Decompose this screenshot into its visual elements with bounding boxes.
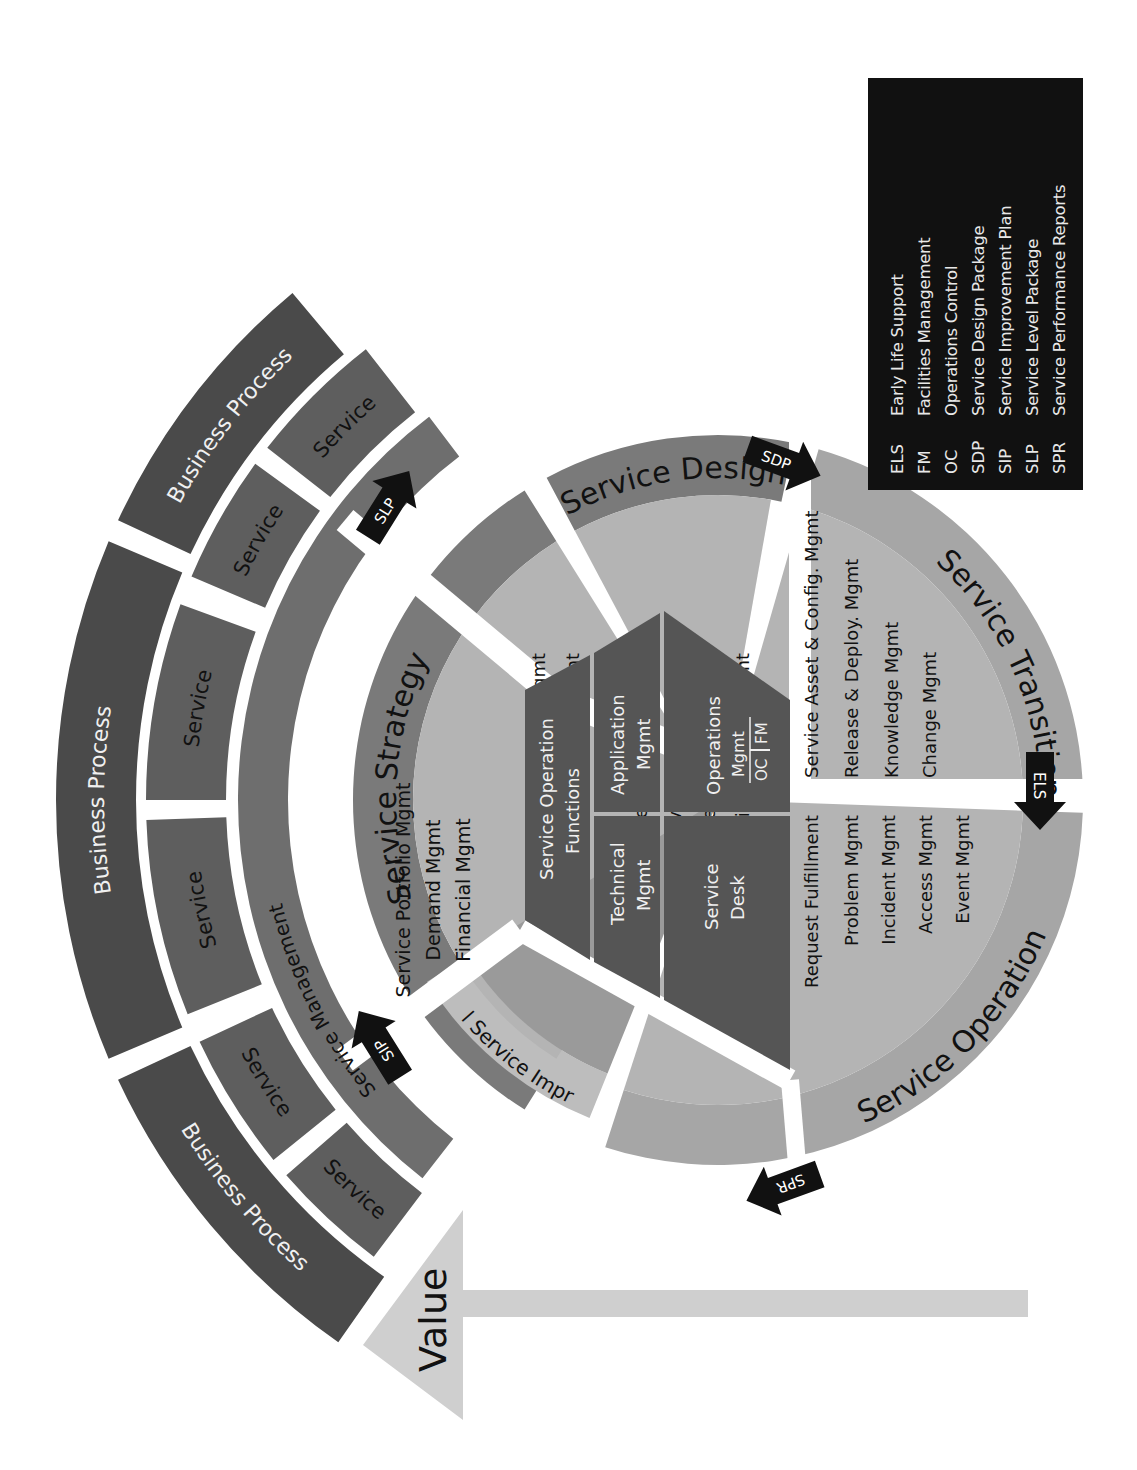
process-item: Event Mgmt: [952, 815, 973, 924]
legend-full: Service Design Package: [965, 226, 992, 416]
flow-arrow-label: ELS: [1030, 772, 1048, 799]
process-item: Knowledge Mgmt: [881, 622, 902, 778]
hub-operations-line-1: Operations: [703, 696, 724, 795]
value-arrow: Value: [363, 1210, 1028, 1420]
legend-row: SPRService Performance Reports: [1046, 78, 1073, 474]
legend-row: OCOperations Control: [938, 78, 965, 474]
hub-oc-label: OC: [753, 759, 771, 781]
process-item: Request Fulfillment: [801, 815, 822, 988]
process-item: Access Mgmt: [915, 815, 936, 934]
legend-abbr: SIP: [992, 416, 1019, 474]
process-item: Service Portfolio Mgmt: [392, 783, 414, 998]
legend-row: SLPService Level Package: [1019, 78, 1046, 474]
legend-row: SDPService Design Package: [965, 78, 992, 474]
legend-content: ELSEarly Life Support FMFacilities Manag…: [868, 78, 1083, 490]
hub-title-line-2: Functions: [562, 768, 583, 854]
legend-abbr: OC: [938, 416, 965, 474]
hub-service-desk-line-2: Desk: [727, 875, 748, 920]
process-item: Demand Mgmt: [422, 819, 444, 960]
legend-abbr: SLP: [1019, 416, 1046, 474]
process-item: Incident Mgmt: [878, 815, 899, 945]
legend-row: FMFacilities Management: [911, 78, 938, 474]
legend-row: ELSEarly Life Support: [884, 78, 911, 474]
legend-abbr: SPR: [1046, 416, 1073, 474]
process-item: Release & Deploy. Mgmt: [841, 559, 862, 778]
process-item: Change Mgmt: [919, 652, 940, 778]
legend-row: SIPService Improvement Plan: [992, 78, 1019, 474]
legend-full: Service Performance Reports: [1046, 185, 1073, 416]
hub-operations-line-2: Mgmt: [729, 731, 748, 777]
abbreviation-legend: ELSEarly Life Support FMFacilities Manag…: [868, 78, 1083, 490]
legend-full: Early Life Support: [884, 274, 911, 416]
legend-full: Facilities Management: [911, 238, 938, 416]
hub-application-line-2: Mgmt: [633, 718, 654, 770]
hub-fm-label: FM: [753, 722, 771, 744]
legend-abbr: SDP: [965, 416, 992, 474]
value-arrow-label: Value: [411, 1268, 455, 1372]
hub-application-line-1: Application: [607, 694, 628, 795]
legend-full: Service Improvement Plan: [992, 206, 1019, 416]
process-item: Service Asset & Config. Mgmt: [801, 510, 822, 778]
hub-title-line-1: Service Operation: [536, 718, 557, 880]
hub-technical-line-1: Technical: [607, 842, 628, 926]
process-item: Problem Mgmt: [841, 815, 862, 946]
legend-full: Operations Control: [938, 266, 965, 416]
hub-technical-line-2: Mgmt: [633, 859, 654, 911]
legend-abbr: FM: [911, 416, 938, 474]
legend-full: Service Level Package: [1019, 239, 1046, 416]
legend-abbr: ELS: [884, 416, 911, 474]
value-arrow-shape: [363, 1210, 1028, 1420]
process-item: Financial Mgmt: [452, 818, 474, 962]
hub-service-desk-line-1: Service: [701, 863, 722, 930]
